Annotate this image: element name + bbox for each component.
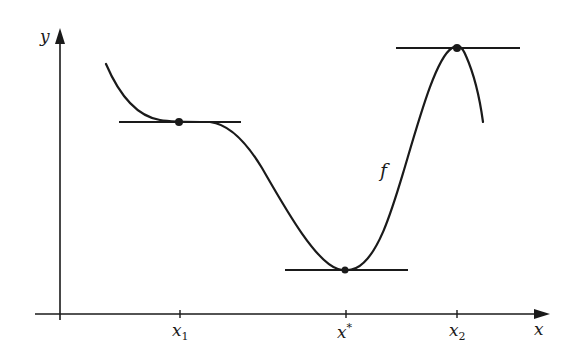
saddle-point-dot: [175, 118, 183, 126]
diagram: y x x1 x* x2 f: [0, 0, 573, 360]
diagram-graphics: [0, 0, 573, 360]
tick-label-x1: x1: [172, 322, 189, 342]
x-axis: [35, 309, 550, 319]
curve-f: [106, 46, 483, 270]
tick-label-xstar: x*: [337, 322, 352, 341]
tick-label-x2: x2: [449, 322, 466, 342]
y-axis-arrow-icon: [55, 28, 65, 44]
x-axis-arrow-icon: [534, 309, 550, 319]
y-axis: [55, 28, 65, 320]
x-axis-label: x: [534, 321, 544, 338]
minimum-point-dot: [342, 267, 349, 274]
y-axis-label: y: [40, 28, 50, 45]
maximum-point-dot: [453, 44, 461, 52]
curve-label-f: f: [380, 161, 387, 180]
